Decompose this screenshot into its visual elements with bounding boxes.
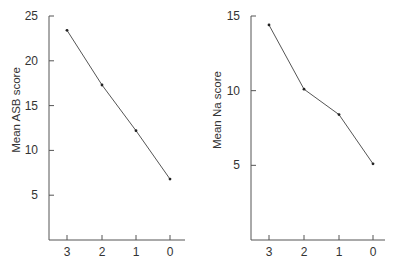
data-line <box>269 25 373 164</box>
data-point <box>372 162 375 165</box>
y-tick-label: 20 <box>25 54 39 68</box>
x-tick-label: 0 <box>370 245 377 259</box>
x-tick-label: 1 <box>336 245 343 259</box>
chart-na: 510153210Mean Na score <box>211 9 385 259</box>
axis-lines <box>49 16 185 240</box>
y-axis-title: Mean Na score <box>211 71 223 149</box>
chart-figure: 5101520253210Mean ASB score 510153210Mea… <box>0 0 395 266</box>
x-tick-label: 2 <box>99 245 106 259</box>
y-tick-label: 15 <box>25 99 39 113</box>
y-tick-label: 10 <box>227 84 241 98</box>
x-tick-label: 1 <box>133 245 140 259</box>
data-point <box>268 24 271 27</box>
data-point <box>303 88 306 91</box>
data-point <box>66 29 69 32</box>
y-tick-label: 25 <box>25 9 39 23</box>
data-point <box>135 129 138 132</box>
chart-asb: 5101520253210Mean ASB score <box>10 9 185 259</box>
y-tick-label: 5 <box>233 158 240 172</box>
x-tick-label: 3 <box>64 245 71 259</box>
data-point <box>101 84 104 87</box>
data-point <box>169 178 172 181</box>
data-point <box>338 113 341 116</box>
x-tick-label: 0 <box>167 245 174 259</box>
x-tick-label: 2 <box>301 245 308 259</box>
y-axis-title: Mean ASB score <box>10 67 22 153</box>
y-tick-label: 5 <box>31 188 38 202</box>
data-line <box>67 30 170 179</box>
y-tick-label: 15 <box>227 9 241 23</box>
x-tick-label: 3 <box>266 245 273 259</box>
y-tick-label: 10 <box>25 143 39 157</box>
axis-lines <box>251 16 385 240</box>
